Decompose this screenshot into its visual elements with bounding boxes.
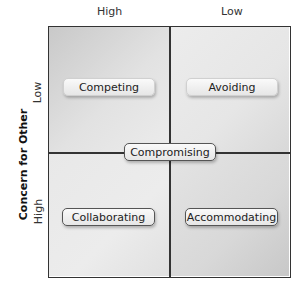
- row-label-low: Low: [31, 82, 44, 104]
- style-avoiding: Avoiding: [186, 78, 278, 96]
- style-competing: Competing: [63, 78, 155, 96]
- style-compromising: Compromising: [124, 143, 216, 161]
- column-label-high: High: [97, 5, 122, 18]
- row-label-high: High: [32, 199, 45, 224]
- style-accommodating: Accommodating: [185, 208, 278, 226]
- style-collaborating: Collaborating: [62, 208, 155, 226]
- column-label-low: Low: [221, 5, 243, 18]
- y-axis-title: Concern for Other: [17, 109, 30, 220]
